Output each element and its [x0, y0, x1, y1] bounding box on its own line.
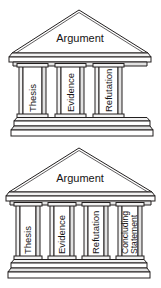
- base-top: [11, 118, 153, 137]
- three-column-temple: Argument: [0, 0, 161, 144]
- pediment-bottom: [9, 148, 152, 193]
- column-label-bottom-1: Evidence: [56, 215, 67, 254]
- pediment-label-bottom: Argument: [56, 172, 104, 184]
- base-bottom: [8, 260, 150, 279]
- column-label-bottom-0: Thesis: [22, 226, 33, 254]
- column-label-bottom-3-line2: Statement: [129, 214, 139, 254]
- pediment-label-top: Argument: [56, 32, 104, 44]
- column-label-top-2: Refutation: [103, 69, 114, 112]
- column-label-top-1: Evidence: [65, 73, 76, 112]
- four-column-temple: Argument: [0, 144, 161, 288]
- argument-temples-diagram: Argument: [0, 0, 161, 288]
- column-label-bottom-2: Refutation: [90, 211, 101, 254]
- column-label-top-0: Thesis: [27, 84, 38, 112]
